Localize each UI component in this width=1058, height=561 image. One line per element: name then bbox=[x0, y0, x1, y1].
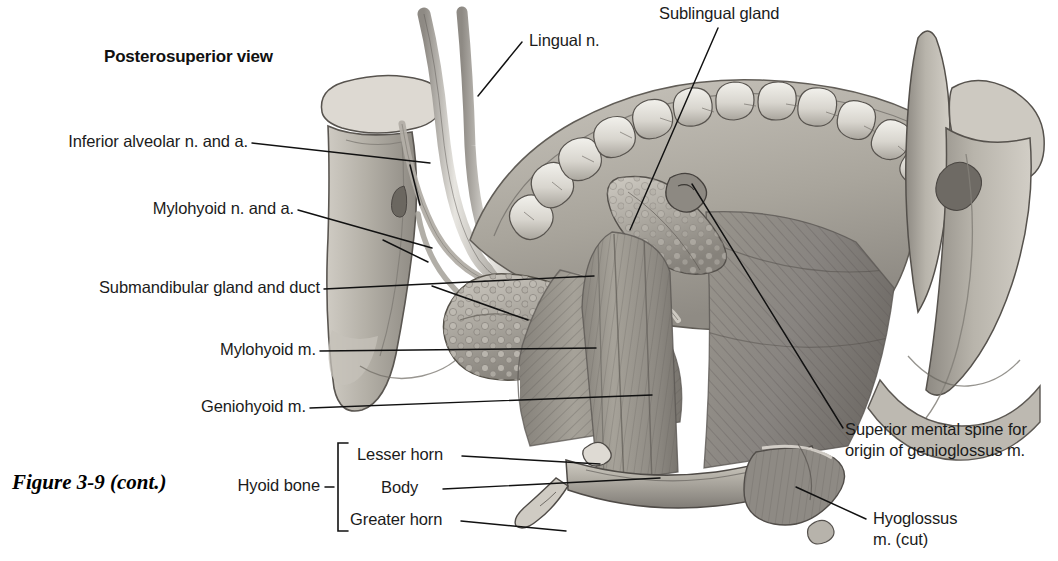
label-mylohyoid-nerve: Mylohyoid n. and a. bbox=[0, 198, 294, 218]
label-lingual-nerve: Lingual n. bbox=[529, 30, 600, 50]
label-sublingual-gland: Sublingual gland bbox=[659, 3, 779, 23]
greater-horn bbox=[515, 478, 568, 528]
anatomical-figure: Posterosuperior view Figure 3-9 (cont.) … bbox=[0, 0, 1058, 561]
label-lesser-horn: Lesser horn bbox=[357, 444, 443, 464]
bone-fragment bbox=[808, 520, 835, 544]
label-body: Body bbox=[381, 477, 418, 497]
label-superior-mental-spine-line1: Superior mental spine for bbox=[845, 419, 1027, 439]
label-inferior-alveolar: Inferior alveolar n. and a. bbox=[0, 131, 248, 151]
view-heading: Posterosuperior view bbox=[104, 47, 273, 67]
label-hyoid-bone: Hyoid bone bbox=[150, 475, 320, 495]
label-hyoglossus-line2: m. (cut) bbox=[873, 529, 928, 549]
figure-caption: Figure 3-9 (cont.) bbox=[12, 470, 167, 495]
lesser-horn bbox=[583, 442, 612, 466]
label-geniohyoid-muscle: Geniohyoid m. bbox=[0, 396, 306, 416]
label-submandibular: Submandibular gland and duct bbox=[0, 277, 320, 297]
hyoglossus-muscle-cut bbox=[740, 440, 850, 530]
label-superior-mental-spine-line2: origin of genioglossus m. bbox=[845, 440, 1025, 460]
label-hyoglossus-line1: Hyoglossus bbox=[873, 508, 957, 528]
label-greater-horn: Greater horn bbox=[350, 509, 442, 529]
label-mylohyoid-muscle: Mylohyoid m. bbox=[0, 339, 316, 359]
